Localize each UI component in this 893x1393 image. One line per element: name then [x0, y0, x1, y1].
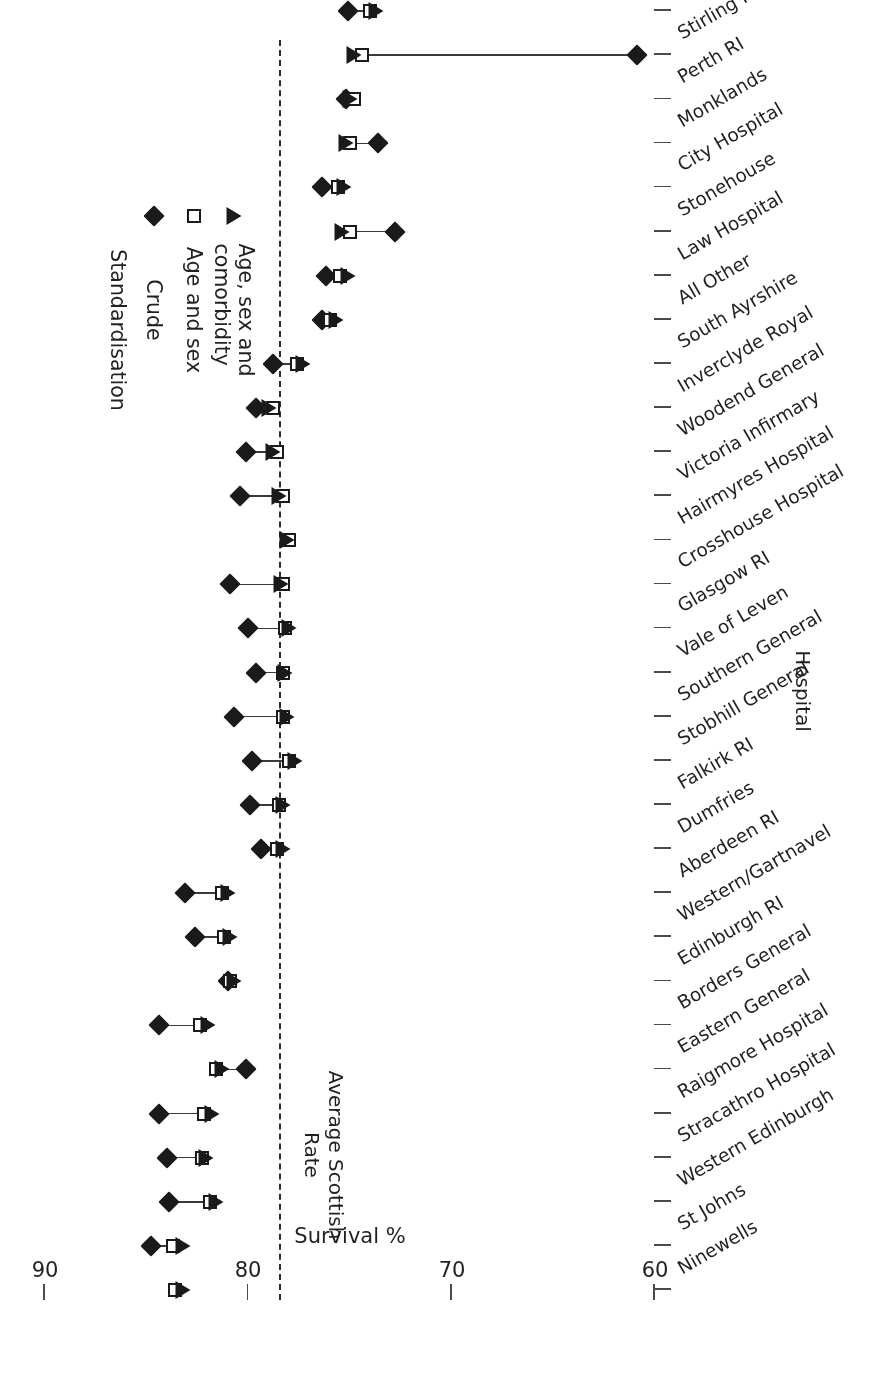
average-rate-label: Average Scottish Rate — [299, 1071, 346, 1240]
data-point-triangle — [296, 355, 311, 373]
category-axis-tick — [654, 759, 671, 761]
data-point-triangle — [227, 972, 242, 990]
data-point-diamond — [246, 662, 267, 683]
data-point-triangle — [273, 575, 288, 593]
category-axis-tick — [654, 847, 671, 849]
category-axis-tick — [654, 1200, 671, 1202]
data-point-diamond — [148, 1103, 169, 1124]
legend-label: Crude — [142, 279, 166, 340]
value-axis-label-60: 60 — [642, 1258, 669, 1282]
category-axis-tick — [654, 494, 671, 496]
data-point-diamond — [219, 574, 240, 595]
data-point-diamond — [236, 442, 257, 463]
value-axis-label-90: 90 — [32, 1258, 59, 1282]
data-point-diamond — [140, 1235, 161, 1256]
chart-figure: 90807060Survival %NinewellsSt JohnsWeste… — [0, 0, 893, 1393]
data-point-diamond — [156, 1147, 177, 1168]
category-axis-tick — [654, 274, 671, 276]
category-axis-tick — [654, 803, 671, 805]
data-point-triangle — [336, 179, 351, 197]
category-axis-tick — [654, 671, 671, 673]
value-axis-label-80: 80 — [235, 1258, 262, 1282]
data-point-diamond — [337, 1, 358, 22]
legend-marker-filled-diamond — [143, 205, 164, 226]
data-point-triangle — [176, 1237, 191, 1255]
data-point-diamond — [238, 618, 259, 639]
data-point-triangle — [208, 1193, 223, 1211]
data-point-triangle — [176, 1281, 191, 1299]
data-point-triangle — [275, 840, 290, 858]
data-point-triangle — [200, 1016, 215, 1034]
value-axis-tick-80 — [247, 1284, 249, 1300]
data-point-diamond — [185, 927, 206, 948]
data-point-triangle — [214, 1061, 229, 1079]
data-point-diamond — [626, 45, 647, 66]
category-axis-tick — [654, 406, 671, 408]
category-axis-tick — [654, 1112, 671, 1114]
data-point-diamond — [236, 1059, 257, 1080]
category-axis-tick — [654, 627, 671, 629]
data-point-triangle — [261, 399, 276, 417]
value-axis-tick-70 — [450, 1284, 452, 1300]
legend-marker-filled-triangle — [227, 207, 242, 225]
legend-title: Standardisation — [106, 249, 130, 410]
data-point-triangle — [343, 90, 358, 108]
category-label: Stirling RI — [674, 0, 762, 43]
data-point-triangle — [338, 134, 353, 152]
data-point-diamond — [250, 838, 271, 859]
category-axis-tick — [654, 1068, 671, 1070]
category-axis-tick — [654, 186, 671, 188]
data-point-triangle — [265, 443, 280, 461]
data-point-diamond — [175, 883, 196, 904]
data-point-triangle — [288, 752, 303, 770]
data-point-triangle — [282, 620, 297, 638]
category-axis-tick — [654, 1244, 671, 1246]
data-point-triangle — [334, 223, 349, 241]
category-axis-tick — [654, 9, 671, 11]
category-axis-tick — [654, 1156, 671, 1158]
data-row-connector — [354, 54, 637, 56]
category-axis-tick — [654, 891, 671, 893]
category-axis-title: Hospital — [791, 650, 815, 732]
category-axis-tick — [654, 583, 671, 585]
data-point-triangle — [198, 1149, 213, 1167]
plot-area: 90807060Survival %NinewellsSt JohnsWeste… — [0, 0, 893, 1393]
data-point-triangle — [279, 531, 294, 549]
data-point-diamond — [230, 486, 251, 507]
category-axis-tick — [654, 142, 671, 144]
data-point-triangle — [204, 1105, 219, 1123]
category-axis-tick — [654, 539, 671, 541]
data-point-diamond — [158, 1191, 179, 1212]
value-axis-label-70: 70 — [438, 1258, 465, 1282]
data-point-diamond — [368, 133, 389, 154]
data-point-diamond — [311, 177, 332, 198]
category-axis-tick — [654, 450, 671, 452]
category-axis-tick — [654, 980, 671, 982]
category-axis-tick — [654, 362, 671, 364]
data-point-triangle — [347, 46, 362, 64]
data-point-diamond — [224, 706, 245, 727]
category-axis-tick — [654, 715, 671, 717]
value-axis-tick-90 — [43, 1284, 45, 1300]
data-point-triangle — [279, 708, 294, 726]
category-axis-tick — [654, 318, 671, 320]
category-axis-tick — [654, 98, 671, 100]
data-point-triangle — [271, 487, 286, 505]
legend-marker-open-square — [187, 209, 201, 223]
category-axis-tick — [654, 1024, 671, 1026]
data-point-diamond — [240, 794, 261, 815]
data-point-triangle — [340, 267, 355, 285]
category-axis-tick — [654, 1288, 671, 1290]
data-point-diamond — [148, 1015, 169, 1036]
data-point-triangle — [275, 796, 290, 814]
category-axis-tick — [654, 53, 671, 55]
data-point-diamond — [242, 750, 263, 771]
category-axis-tick — [654, 230, 671, 232]
data-point-triangle — [369, 2, 384, 20]
legend-label: Age, sex and comorbidity — [210, 244, 258, 377]
data-point-diamond — [384, 221, 405, 242]
value-axis-tick-60 — [653, 1284, 655, 1300]
category-axis-tick — [654, 935, 671, 937]
data-point-triangle — [277, 664, 292, 682]
data-point-triangle — [328, 311, 343, 329]
